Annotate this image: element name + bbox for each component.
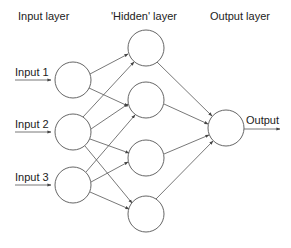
- hidden-layer-nodes: [128, 30, 164, 232]
- input-3-label: Input 3: [15, 171, 49, 183]
- input-node-3: [55, 167, 91, 203]
- output-node: [208, 110, 244, 146]
- input-1: Input 1: [15, 66, 51, 80]
- hidden-node-4: [128, 196, 164, 232]
- input-1-label: Input 1: [15, 66, 49, 78]
- input-2-label: Input 2: [15, 118, 49, 130]
- neural-network-diagram: Input layer 'Hidden' layer Output layer …: [0, 0, 291, 248]
- input-3: Input 3: [15, 171, 51, 185]
- hidden-node-3: [128, 140, 164, 176]
- hidden-node-2: [128, 82, 164, 118]
- output-layer-title: Output layer: [210, 10, 270, 22]
- hidden-layer-title: 'Hidden' layer: [111, 10, 177, 22]
- input-node-1: [55, 62, 91, 98]
- output-label: Output: [246, 114, 279, 126]
- input-node-2: [55, 114, 91, 150]
- output: Output: [244, 114, 280, 129]
- output-layer-nodes: [208, 110, 244, 146]
- input-2: Input 2: [15, 118, 51, 132]
- hidden-output-connections: [156, 62, 213, 199]
- input-layer-title: Input layer: [18, 10, 70, 22]
- input-layer-nodes: [55, 62, 91, 203]
- hidden-node-1: [128, 30, 164, 66]
